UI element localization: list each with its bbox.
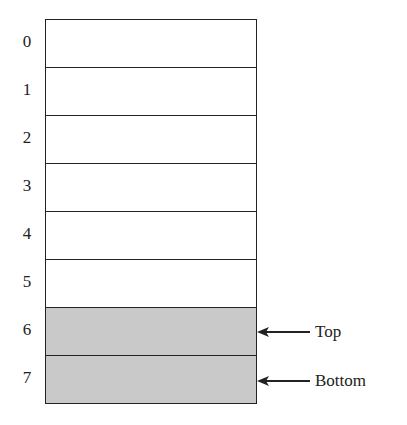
top-pointer: Top <box>257 322 341 342</box>
bottom-label: Bottom <box>315 371 366 391</box>
stack-cell-7 <box>46 356 256 403</box>
bottom-pointer: Bottom <box>257 371 366 391</box>
top-label: Top <box>315 322 341 342</box>
index-label-0: 0 <box>20 32 34 52</box>
stack-cell-2 <box>46 116 256 164</box>
stack-array <box>45 19 257 404</box>
index-label-5: 5 <box>20 272 34 292</box>
index-label-2: 2 <box>20 128 34 148</box>
left-arrow-icon <box>257 374 311 388</box>
index-label-6: 6 <box>20 320 34 340</box>
stack-cell-1 <box>46 68 256 116</box>
index-label-4: 4 <box>20 224 34 244</box>
stack-cell-5 <box>46 260 256 308</box>
left-arrow-icon <box>257 325 311 339</box>
index-label-3: 3 <box>20 176 34 196</box>
index-label-7: 7 <box>20 368 34 388</box>
index-label-1: 1 <box>20 80 34 100</box>
stack-cell-0 <box>46 20 256 68</box>
stack-cell-6 <box>46 308 256 356</box>
stack-cell-4 <box>46 212 256 260</box>
stack-cell-3 <box>46 164 256 212</box>
